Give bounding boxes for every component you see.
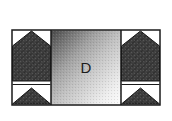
right-panel: [121, 30, 160, 105]
center-panel: D: [51, 31, 121, 105]
diagram-figure: D: [0, 0, 172, 121]
center-region-label: D: [81, 59, 92, 76]
left-panel: [12, 30, 51, 105]
diagram-canvas: D: [0, 0, 172, 121]
